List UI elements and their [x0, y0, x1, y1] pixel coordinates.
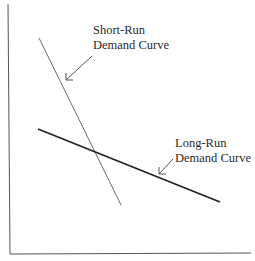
short-run-label-line2: Demand Curve — [93, 38, 169, 52]
y-axis — [8, 4, 10, 254]
demand-curve-diagram: Short-Run Demand Curve Long-Run Demand C… — [0, 0, 255, 261]
short-run-arrow-icon — [66, 56, 92, 80]
long-run-label-line2: Demand Curve — [175, 151, 251, 165]
x-axis — [10, 253, 251, 254]
short-run-demand-curve — [39, 38, 121, 205]
short-run-label-line1: Short-Run — [93, 23, 146, 37]
long-run-label-line1: Long-Run — [175, 136, 227, 150]
long-run-arrow-icon — [159, 159, 173, 174]
